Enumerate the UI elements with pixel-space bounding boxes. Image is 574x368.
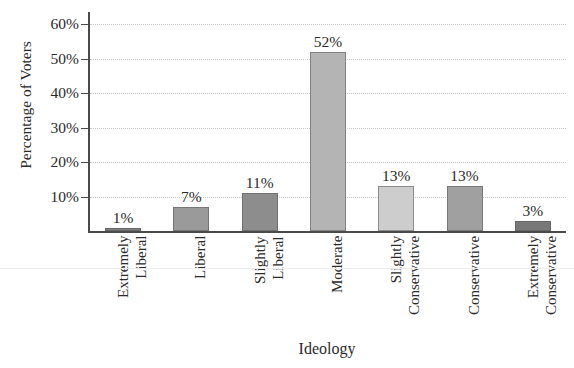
y-axis-tick-label: 50% (51, 50, 79, 68)
x-axis-category-label-line: Extremely (524, 236, 542, 315)
x-axis-category-label-line: Slightly (251, 236, 269, 284)
x-axis-category-label-line: Liberal (191, 236, 209, 279)
chart-title-fragment (0, 0, 574, 2)
y-axis-tick (81, 93, 90, 94)
x-axis-category-label-line: Extremely (114, 236, 132, 298)
y-axis-tick-label: 60% (51, 15, 79, 33)
bar[interactable]: 1% (105, 228, 141, 231)
gridline (90, 24, 566, 26)
x-axis-category-label-line: Liberal (132, 236, 150, 298)
x-axis-category-label-line: Conservative (542, 236, 560, 315)
x-axis-category-label-line: Conservative (465, 236, 483, 315)
y-axis-tick (81, 59, 90, 60)
bar-value-label: 3% (523, 202, 544, 220)
x-axis-category-label-line: Slightly (387, 236, 405, 315)
y-axis-tick (81, 162, 90, 163)
scan-artifact-line (0, 268, 574, 269)
x-axis-category-label-line: Conservative (405, 236, 423, 315)
bar[interactable]: 13% (447, 186, 483, 231)
y-axis-tick (81, 24, 90, 25)
bar-value-label: 1% (113, 209, 134, 227)
bar-value-label: 52% (314, 33, 342, 51)
y-axis-title: Percentage of Voters (17, 5, 35, 205)
bar-value-label: 13% (382, 167, 410, 185)
plot-area: 10%20%30%40%50%60% 1%7%11%52%13%13%3% (88, 12, 566, 232)
bar-chart: Percentage of Voters 10%20%30%40%50%60% … (0, 0, 574, 368)
y-axis-tick (81, 197, 90, 198)
x-axis-category-label-line: Moderate (328, 236, 346, 293)
bar-value-label: 7% (181, 188, 202, 206)
y-axis-tick-label: 30% (51, 119, 79, 137)
bar-value-label: 11% (246, 174, 274, 192)
bar[interactable]: 52% (310, 52, 346, 231)
bar-value-label: 13% (450, 167, 478, 185)
y-axis-tick-label: 40% (51, 84, 79, 102)
bar[interactable]: 7% (173, 207, 209, 231)
bar[interactable]: 11% (242, 193, 278, 231)
x-axis-category-label-line: Liberal (269, 236, 287, 284)
y-axis-tick-label: 20% (51, 153, 79, 171)
x-axis-line (88, 231, 566, 233)
bar[interactable]: 3% (515, 221, 551, 231)
y-axis-line (88, 12, 90, 233)
bar[interactable]: 13% (378, 186, 414, 231)
y-axis-tick-label: 10% (51, 188, 79, 206)
y-axis-tick (81, 128, 90, 129)
x-axis-title: Ideology (88, 340, 566, 358)
